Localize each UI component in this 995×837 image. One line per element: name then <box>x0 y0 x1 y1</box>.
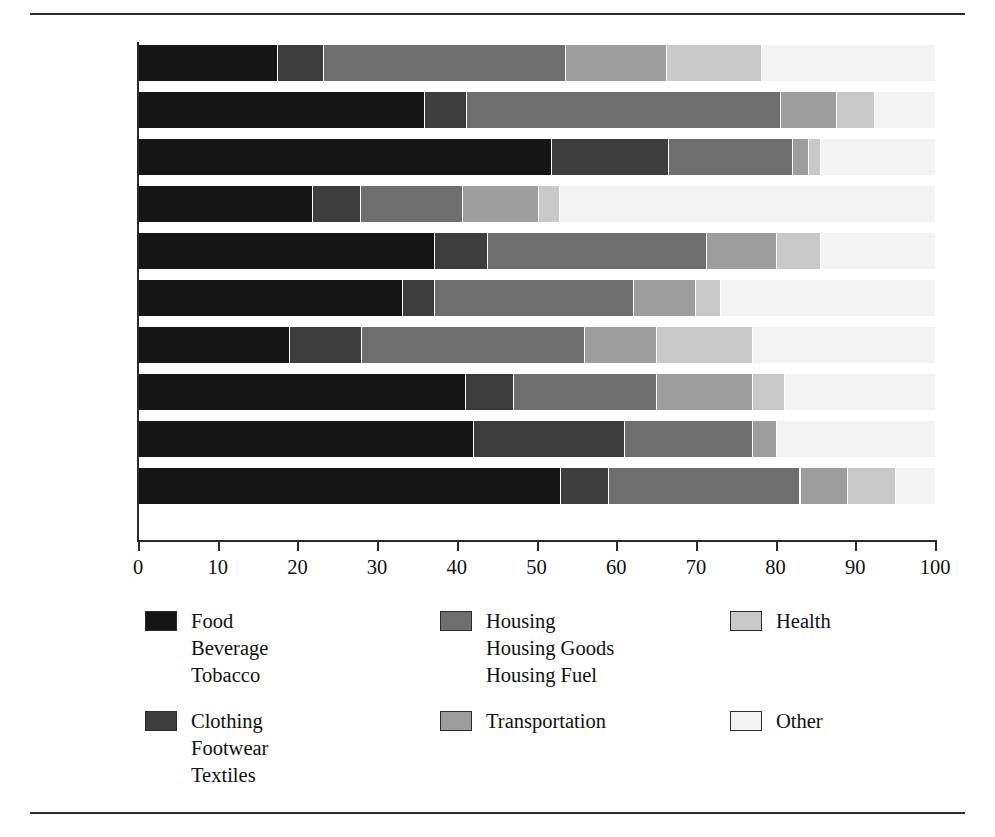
bar-segment <box>462 186 539 222</box>
bar-segment <box>360 186 461 222</box>
legend-label: Housing Housing Goods Housing Fuel <box>486 608 614 689</box>
bar-segment <box>633 280 695 316</box>
bar-segment <box>465 374 513 410</box>
bar-segment <box>776 233 820 269</box>
bar-segment <box>138 280 402 316</box>
bar-segment <box>361 327 584 363</box>
bar-segment <box>752 374 784 410</box>
bar-row: U.S.S.R. <box>0 416 995 463</box>
stacked-bar <box>138 468 935 504</box>
bar-segment <box>656 327 752 363</box>
bar-segment <box>608 468 799 504</box>
bar-row: S. Africa <box>0 275 995 322</box>
bar-segment <box>560 468 608 504</box>
legend-item: Other <box>730 708 823 735</box>
x-axis-tick <box>218 540 220 551</box>
bar-row: U.S. <box>0 40 995 87</box>
x-axis-tick <box>138 540 140 551</box>
chart-legend: Food Beverage TobaccoClothing Footwear T… <box>0 608 995 788</box>
bar-row: Ireland <box>0 369 995 416</box>
bar-segment <box>138 374 465 410</box>
legend-swatch-icon <box>730 711 762 731</box>
legend-item: Housing Housing Goods Housing Fuel <box>440 608 614 689</box>
x-axis: 0102030405060708090100 <box>0 540 995 600</box>
legend-item: Food Beverage Tobacco <box>145 608 268 689</box>
legend-swatch-icon <box>440 711 472 731</box>
bar-segment <box>895 468 935 504</box>
bar-segment <box>138 92 424 128</box>
x-axis-tick-label: 90 <box>825 556 885 579</box>
bar-segment <box>752 327 935 363</box>
legend-item: Health <box>730 608 831 635</box>
legend-swatch-icon <box>440 611 472 631</box>
x-axis-tick <box>935 540 937 551</box>
x-axis-tick-label: 80 <box>746 556 806 579</box>
figure-container: U.S.ArgentinaChinaJapanTaiwanS. AfricaFr… <box>0 0 995 837</box>
bar-row: Taiwan <box>0 228 995 275</box>
x-axis-tick <box>457 540 459 551</box>
bottom-rule <box>30 812 965 814</box>
x-axis-tick-label: 50 <box>507 556 567 579</box>
bar-segment <box>138 139 551 175</box>
x-axis-tick-label: 30 <box>347 556 407 579</box>
stacked-bar <box>138 139 935 175</box>
bar-segment <box>538 186 559 222</box>
legend-swatch-icon <box>145 611 177 631</box>
bar-segment <box>434 280 633 316</box>
x-axis-tick-label: 100 <box>905 556 965 579</box>
bar-segment <box>800 468 848 504</box>
bar-segment <box>138 327 289 363</box>
x-axis-tick-label: 20 <box>267 556 327 579</box>
plot-area: U.S.ArgentinaChinaJapanTaiwanS. AfricaFr… <box>0 40 995 540</box>
bar-segment <box>487 233 706 269</box>
stacked-bar <box>138 280 935 316</box>
bar-row: China <box>0 134 995 181</box>
legend-swatch-icon <box>145 711 177 731</box>
bar-segment <box>776 421 935 457</box>
bar-segment <box>836 92 873 128</box>
legend-label: Other <box>776 708 823 735</box>
bar-segment <box>424 92 466 128</box>
bar-segment <box>656 374 752 410</box>
legend-swatch-icon <box>730 611 762 631</box>
bar-segment <box>277 45 322 81</box>
bar-segment <box>138 186 312 222</box>
bar-segment <box>820 139 935 175</box>
bar-segment <box>565 45 665 81</box>
top-rule <box>30 13 965 15</box>
bar-segment <box>874 92 935 128</box>
legend-item: Clothing Footwear Textiles <box>145 708 268 789</box>
bar-segment <box>466 92 780 128</box>
bar-segment <box>289 327 361 363</box>
stacked-bar <box>138 233 935 269</box>
bar-segment <box>138 468 560 504</box>
stacked-bar <box>138 186 935 222</box>
bar-segment <box>706 233 776 269</box>
stacked-bar <box>138 421 935 457</box>
x-axis-tick <box>696 540 698 551</box>
x-axis-tick <box>776 540 778 551</box>
x-axis-tick <box>297 540 299 551</box>
stacked-bar <box>138 92 935 128</box>
legend-label: Transportation <box>486 708 606 735</box>
bar-segment <box>402 280 434 316</box>
x-axis-tick-label: 10 <box>188 556 248 579</box>
bar-segment <box>784 374 935 410</box>
bar-segment <box>820 233 935 269</box>
bar-segment <box>434 233 487 269</box>
bar-segment <box>473 421 624 457</box>
bar-segment <box>668 139 792 175</box>
bar-segment <box>808 139 820 175</box>
stacked-bar <box>138 45 935 81</box>
bar-segment <box>792 139 808 175</box>
bar-segment <box>513 374 656 410</box>
bar-row: Turkey <box>0 463 995 510</box>
x-axis-tick-label: 40 <box>427 556 487 579</box>
bar-segment <box>720 280 935 316</box>
bar-segment <box>761 45 935 81</box>
x-axis-tick <box>616 540 618 551</box>
bar-segment <box>695 280 720 316</box>
bar-segment <box>584 327 656 363</box>
legend-label: Food Beverage Tobacco <box>191 608 268 689</box>
bar-segment <box>847 468 895 504</box>
